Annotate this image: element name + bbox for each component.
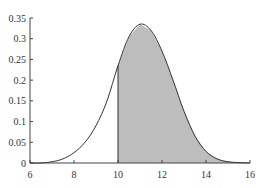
x-tick-label: 12 xyxy=(157,169,167,180)
y-tick-label: 0.25 xyxy=(9,54,27,65)
x-tick-label: 10 xyxy=(113,169,123,180)
y-tick-label: 0.2 xyxy=(14,75,27,86)
y-tick-label: 0 xyxy=(21,158,26,169)
x-tick-label: 8 xyxy=(72,169,77,180)
y-tick-label: 0.35 xyxy=(9,13,27,24)
x-tick-label: 6 xyxy=(28,169,33,180)
y-tick-label: 0.3 xyxy=(14,33,27,44)
y-tick-label: 0.05 xyxy=(9,137,27,148)
y-tick-label: 0.1 xyxy=(14,116,27,127)
x-tick-label: 14 xyxy=(201,169,211,180)
shaded-area xyxy=(118,24,250,163)
y-tick-label: 0.15 xyxy=(9,95,27,106)
density-chart: 681012141600.050.10.150.20.250.30.35 xyxy=(0,0,261,188)
x-tick-label: 16 xyxy=(245,169,255,180)
